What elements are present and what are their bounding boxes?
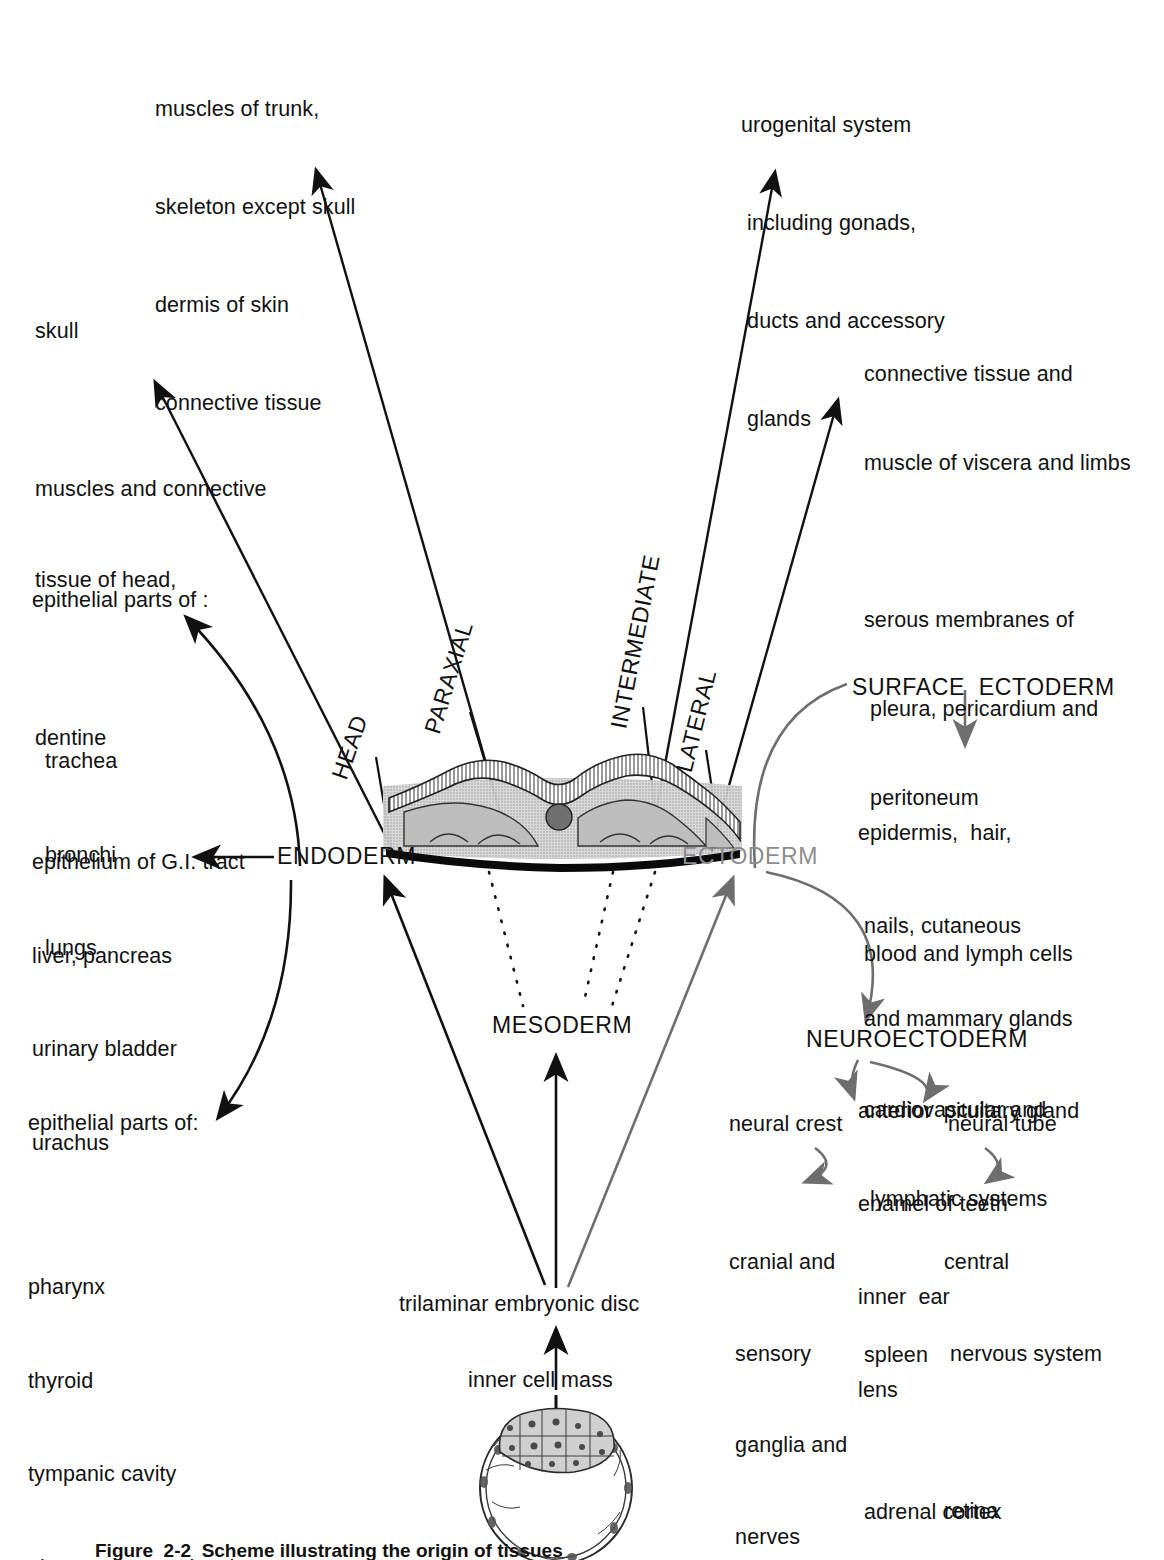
list-item: including gonads, <box>741 207 945 240</box>
list-item: muscle of viscera and limbs <box>864 449 1131 479</box>
list-item: muscles of trunk, <box>155 93 355 126</box>
label-neural-crest: neural crest <box>729 1108 843 1141</box>
list-item: nails, cutaneous <box>858 911 1079 942</box>
diagram-canvas: muscles of trunk, skeleton except skull … <box>0 0 1164 1560</box>
list-item: skull <box>35 316 267 347</box>
neural-tube-derivatives: central nervous system retina pineal bod… <box>944 1186 1102 1560</box>
label-trilaminar-embryonic-disc: trilaminar embryonic disc <box>399 1288 639 1321</box>
heading-neuroectoderm: NEUROECTODERM <box>806 1026 1028 1053</box>
list-item: central <box>944 1247 1102 1278</box>
list-item: cranial and <box>729 1247 965 1278</box>
list-item: thyroid <box>28 1366 254 1397</box>
list-item: skeleton except skull <box>155 191 355 224</box>
list-title: epithelial parts of : <box>32 585 209 616</box>
list-item: ganglia and <box>729 1430 965 1461</box>
list-title: epithelial parts of: <box>28 1108 254 1139</box>
list-item: muscles and connective <box>35 474 267 505</box>
list-item: sensory <box>729 1339 965 1370</box>
list-item: nervous system <box>944 1339 1102 1370</box>
list-item: trachea <box>32 746 209 777</box>
label-inner-cell-mass: inner cell mass <box>468 1364 613 1397</box>
list-item: urogenital system <box>741 109 945 142</box>
list-item: tympanic cavity <box>28 1459 254 1490</box>
list-item: epidermis, hair, <box>858 818 1079 849</box>
endoderm-pharyngeal-derivatives: epithelial parts of: pharynx thyroid tym… <box>28 1046 254 1560</box>
label-ectoderm: ECTODERM <box>682 843 818 870</box>
list-item: retina <box>944 1496 1102 1527</box>
list-item: liver, pancreas <box>32 941 245 972</box>
heading-surface-ectoderm: SURFACE ECTODERM <box>852 674 1115 701</box>
list-item: serous membranes of <box>864 606 1131 636</box>
list-item: epithelium of G.I. tract <box>32 847 245 878</box>
figure-caption: Figure 2-2 Scheme illustrating the origi… <box>95 1540 563 1560</box>
list-item: nerves <box>729 1522 965 1553</box>
label-mesoderm: MESODERM <box>492 1012 632 1039</box>
list-item: connective tissue and <box>864 360 1131 390</box>
list-item: pharynx <box>28 1272 254 1303</box>
label-endoderm: ENDODERM <box>277 843 416 870</box>
neural-crest-derivatives: cranial and sensory ganglia and nerves m… <box>729 1186 965 1560</box>
label-neural-tube: neural tube <box>948 1108 1057 1141</box>
